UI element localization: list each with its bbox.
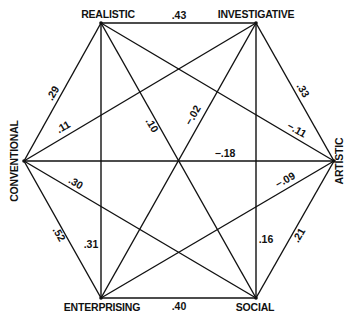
node-dot-investigative	[254, 21, 258, 25]
node-label-artistic: ARTISTIC	[333, 137, 345, 184]
corr-enterprising-conventional: .52	[51, 225, 69, 244]
edge-conventional-realistic	[24, 23, 101, 161]
corr-investigative-conventional: .11	[54, 118, 72, 135]
corr-realistic-artistic: −.11	[285, 119, 309, 140]
node-label-investigative: INVESTIGATIVE	[218, 8, 295, 20]
node-label-enterprising: ENTERPRISING	[64, 301, 140, 313]
node-dot-enterprising	[99, 296, 103, 300]
corr-investigative-social: .16	[259, 233, 274, 245]
node-dot-conventional	[22, 159, 26, 163]
corr-realistic-investigative: .43	[172, 9, 187, 21]
edge-investigative-artistic	[256, 23, 334, 161]
corr-social-enterprising: .40	[172, 300, 187, 312]
corr-social-conventional: .30	[67, 174, 86, 192]
corr-artistic-social: .21	[290, 226, 308, 245]
corr-realistic-enterprising: .31	[84, 238, 99, 250]
node-label-social: SOCIAL	[236, 301, 275, 313]
node-dot-realistic	[99, 21, 103, 25]
corr-artistic-enterprising: −.09	[273, 169, 297, 190]
node-label-realistic: REALISTIC	[81, 8, 135, 20]
corr-artistic-conventional: −.18	[215, 147, 236, 159]
node-dot-social	[254, 296, 258, 300]
node-label-conventional: CONVENTIONAL	[8, 119, 20, 201]
corr-realistic-social: .10	[144, 116, 162, 135]
riasec-hexagon-diagram: REALISTIC INVESTIGATIVE SOCIAL ENTERPRIS…	[0, 0, 358, 320]
